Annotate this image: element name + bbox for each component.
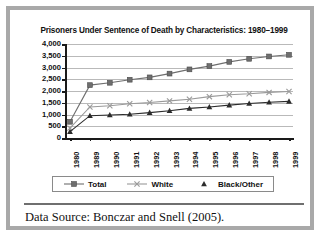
data-point-marker-square: [287, 52, 292, 57]
x-axis-tick-label: 1991: [133, 152, 140, 168]
data-point-marker-square: [247, 56, 252, 61]
y-axis-tick-label: 500: [48, 122, 61, 130]
data-point-marker-square: [207, 64, 212, 69]
data-point-marker-square: [187, 67, 192, 72]
legend-marker-x-icon: [126, 179, 148, 189]
y-axis-tick-label: 0: [57, 134, 61, 142]
x-axis-tick-label: 1998: [272, 152, 279, 168]
legend-label: Total: [88, 180, 107, 189]
data-point-marker-square: [107, 80, 112, 85]
x-axis-tick-label: 1996: [232, 152, 239, 168]
data-point-marker-square: [267, 54, 272, 59]
data-point-marker-square: [147, 75, 152, 80]
figure-background: Prisoners Under Sentence of Death by Cha…: [14, 14, 306, 222]
x-axis-tick-label: 1997: [252, 152, 259, 168]
y-axis-tick-label: 3,000: [42, 64, 61, 72]
data-point-marker-square: [167, 71, 172, 76]
y-axis-tick-labels: 05001,0001,5002,0002,5003,0003,5004,000: [28, 44, 61, 138]
x-axis-tick-label: 1980: [73, 152, 80, 168]
chart-title: Prisoners Under Sentence of Death by Cha…: [28, 26, 300, 35]
legend-label: Black/Other: [218, 180, 263, 189]
y-axis-tick-label: 2,000: [42, 87, 61, 95]
figure-root: Prisoners Under Sentence of Death by Cha…: [0, 0, 320, 236]
legend-item-white[interactable]: White: [126, 179, 173, 189]
chart-series-layer: [65, 44, 294, 139]
y-axis-tick-label: 3,500: [42, 52, 61, 60]
data-point-marker-square: [72, 182, 77, 187]
caption-divider: [24, 203, 304, 205]
figure-border: Prisoners Under Sentence of Death by Cha…: [6, 6, 314, 230]
data-point-marker-square: [227, 59, 232, 64]
y-axis-tick-label: 1,000: [42, 111, 61, 119]
legend-item-black-other[interactable]: Black/Other: [193, 179, 263, 189]
chart-legend: TotalWhiteBlack/Other: [52, 176, 274, 192]
x-axis-tick-label: 1994: [192, 152, 199, 168]
x-axis-tick-label: 1992: [153, 152, 160, 168]
data-point-marker-triangle: [201, 181, 207, 186]
series-line: [70, 55, 289, 122]
series-total: [68, 52, 292, 124]
x-axis-tick-label: 1993: [173, 152, 180, 168]
chart-panel: Prisoners Under Sentence of Death by Cha…: [28, 22, 300, 200]
x-axis-tick-label: 1995: [212, 152, 219, 168]
x-axis-tick-label: 1989: [93, 152, 100, 168]
y-axis-tick-label: 2,500: [42, 75, 61, 83]
y-axis-tick-label: 1,500: [42, 99, 61, 107]
figure-caption: Data Source: Bonczar and Snell (2005).: [25, 210, 305, 225]
legend-marker-square-icon: [63, 179, 85, 189]
data-point-marker-square: [88, 83, 93, 88]
data-point-marker-square: [127, 77, 132, 82]
data-point-marker-square: [68, 119, 73, 124]
series-black-other: [67, 98, 292, 134]
y-axis-tick-label: 4,000: [42, 40, 61, 48]
legend-marker-triangle-icon: [193, 179, 215, 189]
x-axis-tick-label: 1990: [113, 152, 120, 168]
legend-item-total[interactable]: Total: [63, 179, 107, 189]
legend-label: White: [151, 180, 173, 189]
x-axis-tick-label: 1999: [292, 152, 299, 168]
